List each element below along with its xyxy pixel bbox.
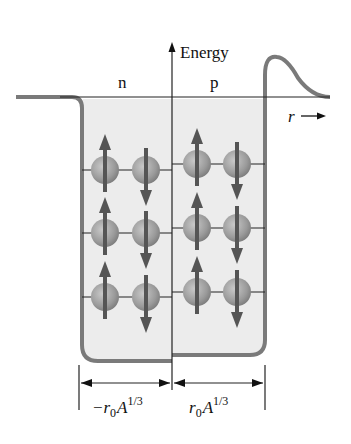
left-radius-label: −r0A1/3	[92, 394, 143, 420]
arrowhead-right-icon	[252, 379, 263, 387]
nuclear-shell-model-diagram: Energy n p r	[0, 0, 351, 444]
proton-label: p	[210, 73, 219, 92]
arrowhead-left-icon	[174, 379, 185, 387]
arrowhead-left-icon	[81, 379, 92, 387]
r-arrowhead-icon	[317, 113, 326, 120]
right-radius-label: r0A1/3	[189, 394, 228, 420]
r-label: r	[288, 107, 295, 126]
neutron-label: n	[118, 73, 127, 92]
energy-axis-arrowhead-icon	[169, 42, 176, 52]
arrowhead-right-icon	[159, 379, 170, 387]
energy-label: Energy	[180, 43, 229, 62]
